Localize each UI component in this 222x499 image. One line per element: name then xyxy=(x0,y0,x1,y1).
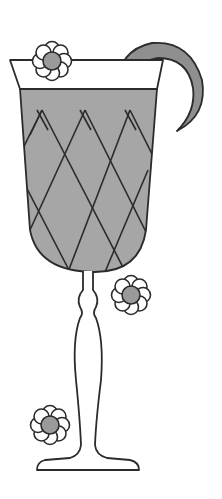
flower-top-left xyxy=(33,42,72,81)
flower-middle-right xyxy=(112,276,151,315)
illustration-canvas: Cocktail glass with lemon peel and flowe… xyxy=(0,0,222,499)
flower-bottom-left xyxy=(31,406,70,445)
liquid xyxy=(0,89,190,320)
cocktail-illustration xyxy=(0,0,222,499)
